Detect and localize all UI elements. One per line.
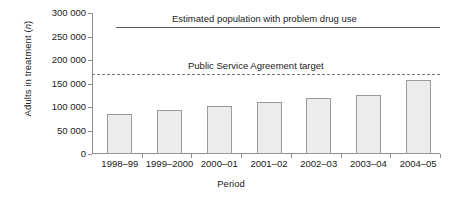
y-tick-label: 300 000 [32, 8, 86, 18]
y-tick-mark [88, 37, 92, 38]
bar [356, 95, 381, 154]
y-axis-tick-labels: 050 000100 000150 000200 000250 000300 0… [28, 0, 86, 199]
y-tick-label: 100 000 [32, 102, 86, 112]
bar [107, 114, 132, 154]
bar [157, 110, 182, 154]
estimated-population-line [116, 27, 440, 28]
x-axis-title: Period [0, 178, 462, 189]
y-tick-mark [88, 154, 92, 155]
plot-area [92, 13, 440, 154]
y-tick-label: 150 000 [32, 79, 86, 89]
y-tick-label: 200 000 [32, 55, 86, 65]
estimated-population-line-label: Estimated population with problem drug u… [172, 13, 357, 24]
x-tick-label: 2004–05 [388, 158, 448, 169]
y-tick-mark [88, 13, 92, 14]
psa-target-line [92, 74, 440, 75]
psa-target-line-label: Public Service Agreement target [188, 60, 324, 71]
y-tick-label: 50 000 [32, 126, 86, 136]
y-tick-mark [88, 84, 92, 85]
y-tick-label: 0 [32, 149, 86, 159]
bar [306, 98, 331, 154]
bar [207, 106, 232, 154]
y-axis-line [92, 13, 93, 154]
bar [257, 102, 282, 154]
y-tick-mark [88, 60, 92, 61]
bar [406, 80, 431, 154]
y-tick-mark [88, 131, 92, 132]
bar-chart-figure: Adults in treatment (n) 050 000100 00015… [0, 0, 462, 199]
y-tick-mark [88, 107, 92, 108]
y-tick-label: 250 000 [32, 32, 86, 42]
